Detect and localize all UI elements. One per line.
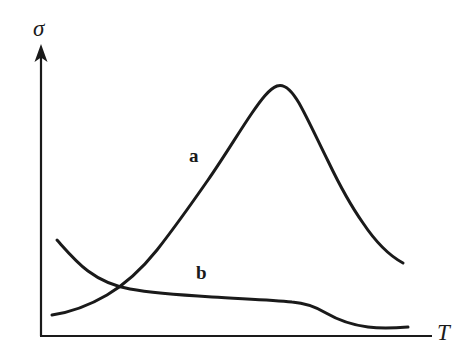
plot-canvas (0, 0, 473, 361)
curve-label-b: b (196, 263, 207, 282)
curve-b-path (57, 240, 408, 328)
x-axis-label: T (437, 321, 450, 344)
curve-label-a: a (189, 146, 199, 165)
schematic-plot-figure: σ T a b (0, 0, 473, 361)
y-axis-label: σ (33, 17, 44, 40)
